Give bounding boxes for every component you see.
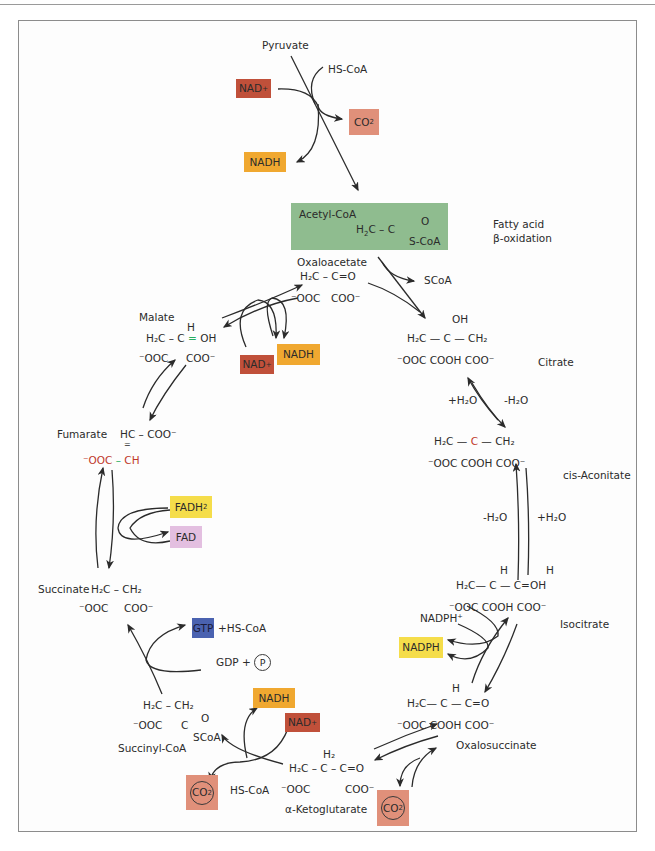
nad-plus-badge: NAD+	[236, 79, 271, 98]
nad-plus-badge-2: NAD+	[285, 713, 320, 732]
oxaloacetate-row2a: ⁻OOC	[291, 293, 320, 304]
citrate-row2: ⁻OOC COOH COO⁻	[397, 355, 494, 366]
oxalosuccinate-h: H	[452, 683, 460, 694]
acetyl-coa-o: O	[421, 216, 429, 227]
acetyl-coa-formula: H2C – C	[356, 224, 395, 235]
c-c-text: C – C	[368, 223, 395, 235]
aconitate-row1: H₂C — C — CH₂	[434, 436, 515, 447]
acetyl-coa-label: Acetyl-CoA	[299, 209, 356, 220]
succinate-label: Succinate	[38, 584, 89, 595]
gdp-text: GDP +	[216, 656, 251, 668]
fumarate-ch: CH	[124, 454, 139, 466]
nadh-text: NADH	[258, 693, 289, 704]
fumarate-row2: ⁻OOC – CH	[83, 455, 140, 466]
aconitate-row2: ⁻OOC COOH COO⁻	[428, 458, 525, 469]
fadh2-text: FADH	[175, 502, 203, 513]
nad-plus-text: NAD	[243, 359, 266, 370]
co2-circle: CO2	[381, 796, 405, 820]
fumarate-bond: –	[112, 454, 124, 466]
isocitrate-row2: ⁻OOC COOH COO⁻	[449, 602, 546, 613]
isocitrate-label: Isocitrate	[560, 619, 609, 630]
fad-badge: FAD	[170, 526, 202, 548]
succinyl-row2a: ⁻OOC	[133, 720, 162, 731]
nadph-text: NADPH	[402, 642, 439, 653]
acetyl-coa-box: Acetyl-CoA H2C – C O S-CoA	[291, 203, 448, 250]
h-text: H	[356, 223, 364, 235]
nad-plus-text: NAD	[288, 717, 311, 728]
co2-circle: CO2	[190, 781, 214, 805]
fumarate-double-bond: =	[124, 441, 131, 449]
succinyl-row1: H₂C – CH₂	[143, 700, 194, 711]
akg-row2b: COO⁻	[345, 784, 374, 795]
malate-oh: OH	[200, 332, 216, 344]
succinyl-o: O	[201, 713, 209, 724]
beta-oxidation-label: β-oxidation	[493, 233, 552, 244]
akg-row1: H₂C – C – C=O	[289, 763, 364, 774]
fadh2-badge: FADH2	[170, 496, 212, 518]
citrate-minus-water: -H₂O	[504, 395, 528, 406]
oxalosuccinate-label: Oxalosuccinate	[456, 740, 537, 751]
oxaloacetate-label: Oxaloacetate	[297, 257, 367, 268]
succinate-row1: H₂C – CH₂	[91, 584, 142, 595]
nadh-badge: NADH	[244, 152, 286, 172]
succinyl-scoa: SCoA	[193, 732, 221, 743]
citrate-row1: H₂C — C — CH₂	[407, 333, 488, 344]
succinyl-coa-label: Succinyl-CoA	[118, 743, 186, 754]
scoa-label: SCoA	[424, 275, 452, 286]
nadph-badge: NADPH	[399, 637, 443, 658]
co2-badge-succinyl: CO2	[186, 775, 218, 810]
fumarate-ooc: ⁻OOC	[83, 454, 112, 466]
nadh-text: NADH	[249, 157, 280, 168]
akg-h2: H₂	[323, 749, 335, 760]
aconitate-plus-water: +H₂O	[537, 512, 566, 523]
co2-badge: CO2	[349, 109, 379, 135]
pyruvate-label: Pyruvate	[262, 40, 309, 51]
citrate-oh: OH	[452, 314, 468, 325]
nadh-badge-3: NADH	[277, 344, 320, 365]
hs-coa-label: HS-CoA	[328, 64, 367, 75]
succinyl-row2b: C	[181, 720, 188, 731]
alpha-ketoglutarate-label: α-Ketoglutarate	[285, 804, 367, 815]
nadh-text: NADH	[283, 349, 314, 360]
gtp-text: GTP	[193, 623, 214, 634]
malate-h2c-c: H₂C – C	[146, 332, 185, 344]
oxaloacetate-row1: H₂C – C=O	[300, 271, 356, 282]
succinate-row2a: ⁻OOC	[79, 603, 108, 614]
cis-aconitate-label: cis-Aconitate	[563, 470, 631, 481]
oxalosuccinate-row2: ⁻OOC COOH COO⁻	[397, 720, 494, 731]
fad-text: FAD	[176, 532, 196, 543]
succinate-row2b: COO⁻	[124, 603, 153, 614]
malate-row2a: ⁻OOC	[139, 353, 168, 364]
akg-row2a: ⁻OOC	[281, 784, 310, 795]
malate-h: H	[187, 322, 195, 333]
phosphate-circle: P	[254, 654, 271, 671]
nad-plus-text: NAD	[239, 83, 262, 94]
acetyl-coa-scoa: S-CoA	[409, 236, 440, 247]
fumarate-row1: HC – COO⁻	[120, 429, 177, 440]
hs-coa-label-2: HS-CoA	[230, 785, 269, 796]
isocitrate-row1: H₂C— C — C=OH	[456, 580, 546, 591]
co2-badge-akg: CO2	[377, 790, 409, 826]
malate-row2b: COO⁻	[186, 353, 215, 364]
malate-row1: H₂C – C = OH	[146, 333, 216, 344]
aconitate-ch2: — CH₂	[481, 435, 514, 447]
gtp-badge: GTP	[192, 618, 214, 638]
malate-label: Malate	[139, 312, 174, 323]
fumarate-label: Fumarate	[57, 429, 107, 440]
phosphate-text: P	[260, 658, 266, 668]
diagram-frame	[18, 20, 637, 832]
gtp-hs-coa-label: +HS-CoA	[218, 623, 266, 634]
malate-bond: =	[185, 332, 200, 344]
gdp-label: GDP + P	[216, 654, 271, 671]
co2-text: CO	[354, 117, 370, 128]
nad-plus-badge-3: NAD+	[240, 355, 274, 374]
aconitate-minus-water: -H₂O	[483, 512, 507, 523]
oxaloacetate-row2b: COO⁻	[331, 293, 360, 304]
isocitrate-h2: H	[546, 565, 554, 576]
citrate-label: Citrate	[538, 357, 574, 368]
nadh-badge-2: NADH	[253, 688, 295, 708]
oxalosuccinate-row1: H₂C— C — C=O	[407, 698, 489, 709]
aconitate-h2c: H₂C —	[434, 435, 467, 447]
top-rule	[0, 4, 655, 5]
co2-text: CO	[383, 803, 399, 814]
